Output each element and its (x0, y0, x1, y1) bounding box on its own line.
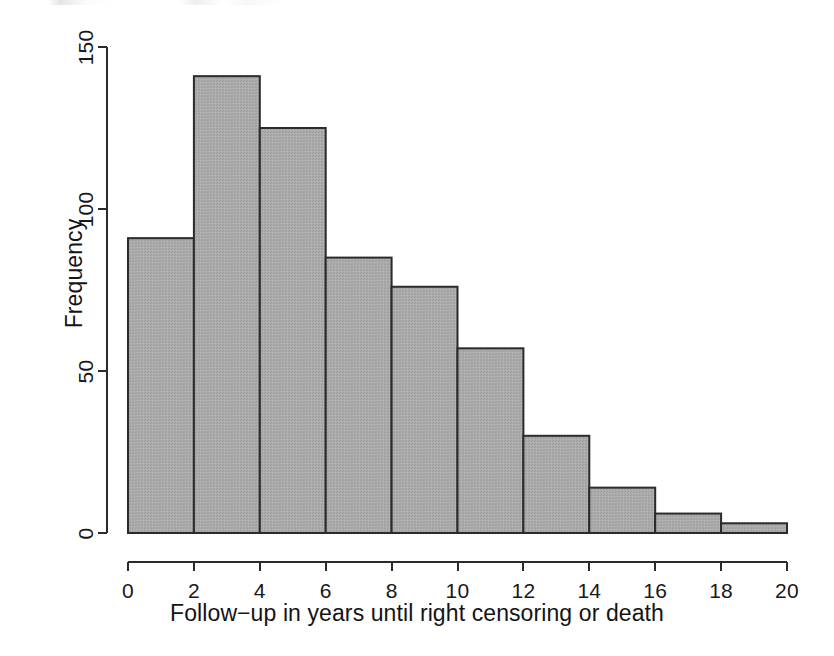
x-tick-label: 18 (691, 580, 751, 601)
y-tick-label: 0 (75, 504, 96, 564)
histogram-bar (392, 287, 458, 533)
histogram-bar (194, 76, 260, 533)
y-tick-label: 150 (75, 18, 96, 78)
x-tick-label: 4 (230, 580, 290, 601)
histogram-bar (260, 128, 326, 533)
histogram-bar (523, 436, 589, 533)
histogram-bar (655, 514, 721, 533)
y-tick-label: 50 (75, 342, 96, 402)
x-tick-label: 8 (362, 580, 422, 601)
x-tick-label: 20 (757, 580, 817, 601)
histogram-bar (589, 488, 655, 533)
histogram-bar (128, 238, 194, 533)
bars-group (128, 76, 787, 533)
x-axis-title: Follow−up in years until right censoring… (0, 600, 834, 627)
x-tick-label: 0 (98, 580, 158, 601)
histogram-bar (458, 348, 524, 533)
histogram-bar (721, 523, 787, 533)
histogram-figure: 02468101214161820 050100150 Follow−up in… (0, 0, 834, 656)
x-tick-label: 6 (296, 580, 356, 601)
plot-canvas (0, 0, 834, 656)
y-axis-title: Frequency (61, 214, 88, 334)
x-tick-label: 10 (428, 580, 488, 601)
x-tick-label: 2 (164, 580, 224, 601)
x-tick-label: 14 (559, 580, 619, 601)
x-tick-label: 16 (625, 580, 685, 601)
x-tick-label: 12 (493, 580, 553, 601)
histogram-bar (326, 258, 392, 533)
